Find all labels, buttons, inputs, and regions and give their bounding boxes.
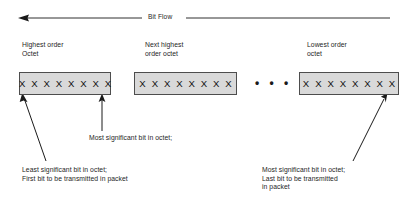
octet-heading-lowest: Lowest order octet xyxy=(307,41,347,58)
octet-bits-highest: X X X X X X X X xyxy=(19,78,113,89)
octet-bits-lowest: X X X X X X X X xyxy=(303,78,397,89)
octet-ellipsis: • • • xyxy=(255,76,292,90)
octet-heading-highest: Highest order Octet xyxy=(22,41,63,58)
lsb-leader-line xyxy=(24,98,46,161)
bit-flow-label: Bit Flow xyxy=(145,13,175,20)
msb-last-leader-line xyxy=(353,99,384,161)
octet-heading-next-highest: Next highest order octet xyxy=(145,41,183,58)
octet-box-lowest: X X X X X X X X xyxy=(299,72,399,95)
annotation-msb-first-octet: Most significant bit in octet; xyxy=(89,134,172,143)
left-arrow-icon xyxy=(18,14,29,21)
annotation-msb-last-octet: Most significant bit in octet; Last bit … xyxy=(262,166,345,192)
annotation-lsb-first-octet: Least significant bit in octet; First bi… xyxy=(22,166,128,183)
octet-box-highest: X X X X X X X X xyxy=(19,72,111,95)
bit-flow-diagram: Bit Flow Highest order Octet Next highes… xyxy=(0,0,413,207)
octet-bits-next-highest: X X X X X X X X xyxy=(139,78,233,89)
octet-box-next-highest: X X X X X X X X xyxy=(134,72,237,95)
